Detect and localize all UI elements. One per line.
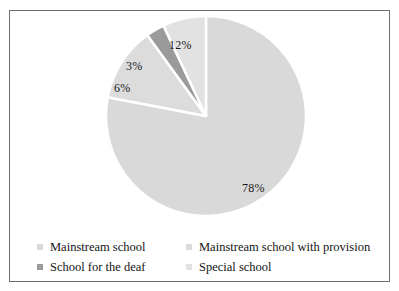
legend-item-mainstream-school[interactable]: Mainstream school: [37, 237, 145, 257]
legend-item-mainstream-school-with-provision[interactable]: Mainstream school with provision: [186, 237, 370, 257]
legend-label: Mainstream school with provision: [199, 240, 370, 254]
legend-label: Special school: [199, 260, 272, 274]
legend-item-special-school[interactable]: Special school: [186, 257, 272, 277]
slice-label-special-school: 6%: [114, 81, 130, 96]
legend-row: Mainstream school Mainstream school with…: [10, 237, 389, 257]
chart-figure: 12% 3% 6% 78% Mainstream school Mainstre…: [9, 10, 390, 282]
chart-legend: Mainstream school Mainstream school with…: [10, 229, 389, 281]
slice-label-school-for-the-deaf: 3%: [126, 59, 142, 74]
slice-label-mainstream-with-provision: 12%: [169, 38, 192, 53]
legend-row: School for the deaf Special school: [10, 257, 389, 277]
legend-item-school-for-the-deaf[interactable]: School for the deaf: [37, 257, 145, 277]
pie-chart-svg: [10, 11, 389, 229]
legend-swatch-icon: [37, 244, 43, 250]
legend-label: School for the deaf: [50, 260, 145, 274]
legend-swatch-icon: [186, 264, 192, 270]
pie-chart-plot-area: 12% 3% 6% 78%: [10, 11, 389, 229]
legend-label: Mainstream school: [50, 240, 145, 254]
legend-swatch-icon: [37, 264, 43, 270]
slice-label-mainstream-school: 78%: [242, 181, 265, 196]
legend-swatch-icon: [186, 244, 192, 250]
pie-slice-group: [106, 16, 306, 216]
